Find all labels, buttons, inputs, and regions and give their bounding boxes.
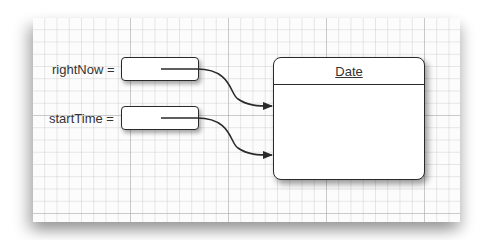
arrow-starttime-to-date: [161, 118, 272, 155]
arrow-rightnow-to-date: [161, 69, 272, 106]
reference-arrows: [0, 0, 488, 240]
